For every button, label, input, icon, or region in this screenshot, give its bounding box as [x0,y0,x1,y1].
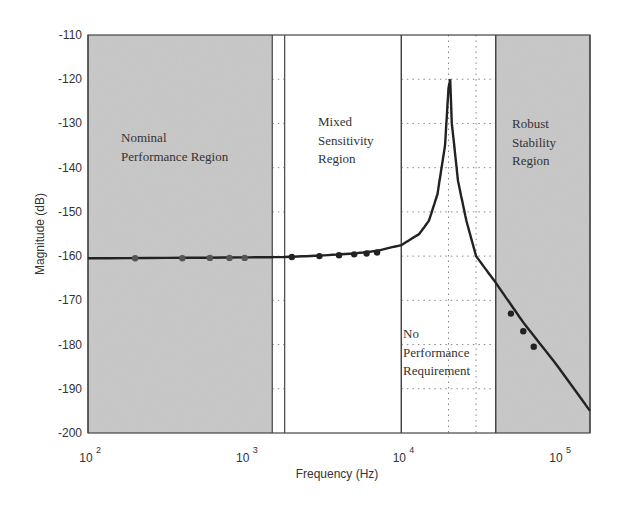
data-marker [336,252,342,258]
y-tick-label: -160 [58,249,82,263]
y-tick-label: -120 [58,72,82,86]
data-marker [508,310,514,316]
region-label: Performance Region [121,149,229,164]
region-shading [88,35,590,433]
svg-text:4: 4 [409,445,414,455]
data-marker [226,255,232,261]
y-tick-label: -140 [58,161,82,175]
svg-text:5: 5 [566,445,571,455]
svg-text:10: 10 [549,451,563,465]
data-marker [520,328,526,334]
data-marker [351,251,357,257]
x-tick-label: 103 [236,445,258,465]
data-marker [179,255,185,261]
y-axis-ticks: -110-120-130-140-150-160-170-180-190-200 [58,28,82,440]
region-label: Sensitivity [318,133,374,148]
region-label: Requirement [403,363,471,378]
svg-text:10: 10 [79,451,93,465]
data-marker [207,255,213,261]
region-mixed-sensitivity-region [285,35,402,433]
x-tick-label: 105 [549,445,571,465]
svg-text:10: 10 [236,451,250,465]
data-marker [289,254,295,260]
data-marker [363,250,369,256]
region-nominal-performance-region [88,35,272,433]
y-tick-label: -110 [59,28,82,42]
x-axis-label: Frequency (Hz) [296,467,379,481]
region-label: Region [512,153,550,168]
y-axis-label: Magnitude (dB) [33,193,47,275]
x-tick-label: 104 [393,445,415,465]
y-tick-label: -180 [58,338,82,352]
region-robust-stability-region [496,35,590,433]
x-tick-label: 102 [79,445,101,465]
region-label: Region [318,151,356,166]
y-tick-label: -170 [58,293,82,307]
svg-text:3: 3 [253,445,258,455]
region-label: No [403,326,419,341]
data-marker [241,255,247,261]
bode-magnitude-chart: NominalPerformance RegionMixedSensitivit… [0,0,618,513]
region-label: Mixed [318,114,352,129]
x-axis-ticks: 102103104105 [79,445,571,465]
region-label: Stability [512,135,557,150]
y-tick-label: -200 [58,426,82,440]
svg-text:2: 2 [96,445,101,455]
y-tick-label: -150 [58,205,82,219]
region-label: Performance [403,345,470,360]
region-label: Nominal [121,130,167,145]
data-marker [531,344,537,350]
svg-text:10: 10 [393,451,407,465]
data-marker [374,249,380,255]
data-marker [132,255,138,261]
y-tick-label: -190 [58,382,82,396]
region-label: Robust [512,116,549,131]
y-tick-label: -130 [58,116,82,130]
data-marker [316,253,322,259]
